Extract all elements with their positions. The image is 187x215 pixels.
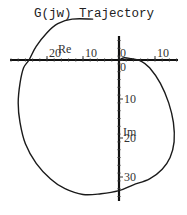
nyquist-plot: G(jw) Trajectory 20100100102030 Re Im	[0, 0, 187, 215]
x-tick-label: 10	[157, 46, 169, 60]
y-tick-label: 0	[120, 60, 126, 74]
axis-ticks	[11, 41, 177, 197]
chart-title: G(jw) Trajectory	[34, 7, 155, 21]
x-axis-label: Re	[58, 42, 71, 56]
axis-tick-labels: 20100100102030	[47, 46, 169, 184]
x-tick-label: 10	[85, 46, 97, 60]
y-tick-label: 30	[124, 170, 136, 184]
y-axis-label: Im	[123, 125, 137, 139]
y-tick-label: 10	[124, 92, 136, 106]
